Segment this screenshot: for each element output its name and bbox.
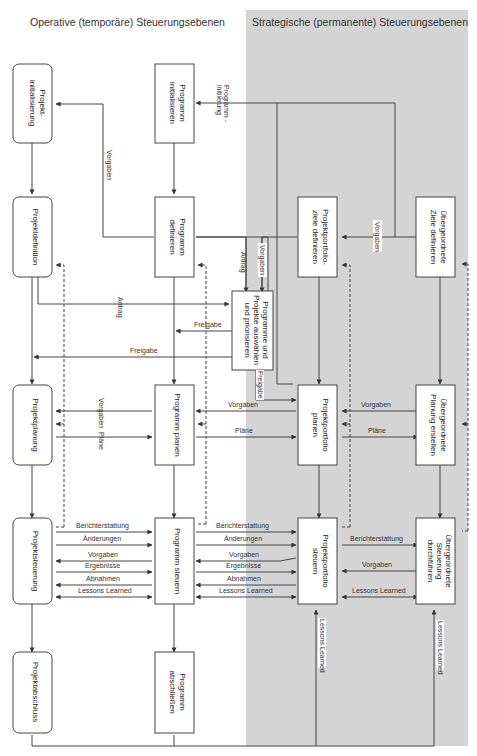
svg-text:Antrag: Antrag xyxy=(116,297,124,318)
svg-text:Vorgaben: Vorgaben xyxy=(88,551,118,559)
box-projektportfolio-planen: Projektportfolioplanen xyxy=(298,385,337,465)
diagram-canvas: Operative (temporäre) Steuerungsebenen S… xyxy=(0,0,477,756)
svg-text:Abnahmen: Abnahmen xyxy=(86,575,120,582)
box-projektplanung: Projektplanung xyxy=(13,385,52,465)
svg-text:Berichterstattung: Berichterstattung xyxy=(216,522,269,530)
svg-text:Projektplanung: Projektplanung xyxy=(31,398,40,451)
svg-text:Ergebnisse: Ergebnisse xyxy=(226,562,261,570)
svg-text:Projektabschluss: Projektabschluss xyxy=(31,662,40,722)
box-projektportfolio-steuern: Projektportfoliosteuern xyxy=(298,518,337,604)
svg-text:Vorgaben: Vorgaben xyxy=(105,150,113,180)
svg-text:Vorgaben: Vorgaben xyxy=(362,561,392,569)
svg-text:Programm steuern: Programm steuern xyxy=(173,528,182,594)
svg-text:Programmabschließen: Programmabschließen xyxy=(168,670,187,713)
operative-header: Operative (temporäre) Steuerungsebenen xyxy=(30,16,225,28)
svg-text:Vorgaben: Vorgaben xyxy=(258,245,266,275)
box-programm-planen: Programm planen xyxy=(155,385,194,465)
box-projektabschluss: Projektabschluss xyxy=(13,652,52,733)
box-projektportfolioziele-definieren: Projektportfolio-ziele definieren xyxy=(298,197,337,277)
svg-text:Ergebnisse: Ergebnisse xyxy=(85,562,120,570)
svg-text:Programminitialisieren: Programminitialisieren xyxy=(168,82,187,124)
box-programm-abschliessen: Programmabschließen xyxy=(155,652,194,733)
svg-text:Berichterstattung: Berichterstattung xyxy=(350,535,403,543)
svg-text:Pläne: Pläne xyxy=(368,427,386,434)
svg-text:Änderungen: Änderungen xyxy=(83,535,121,543)
box-programm-initialisieren: Programminitialisieren xyxy=(155,64,194,143)
svg-text:Programme undProjekte auswähle: Programme undProjekte auswählenund prior… xyxy=(243,295,270,365)
svg-text:ÜbergeordnetePlanung erstellen: ÜbergeordnetePlanung erstellen xyxy=(429,394,448,456)
svg-text:Lessons Learned: Lessons Learned xyxy=(437,621,444,675)
svg-text:Freigabe: Freigabe xyxy=(194,321,222,329)
svg-text:Programmdefinieren: Programmdefinieren xyxy=(168,218,187,256)
svg-text:Lessons Learned: Lessons Learned xyxy=(78,587,132,594)
box-programm-steuern: Programm steuern xyxy=(155,518,194,604)
box-projektsteuerung: Projektsteuerung xyxy=(13,518,52,604)
svg-text:Vorgaben: Vorgaben xyxy=(361,401,391,409)
svg-text:Abnahmen: Abnahmen xyxy=(227,575,261,582)
svg-text:Antrag: Antrag xyxy=(239,252,247,273)
svg-text:Programm -initiierung: Programm -initiierung xyxy=(215,85,230,123)
box-uebergeordnete-ziele-definieren: ÜbergeordneteZiele definieren xyxy=(416,197,455,277)
svg-text:Lessons Learned: Lessons Learned xyxy=(319,619,326,673)
svg-text:ÜbergeordneteZiele definieren: ÜbergeordneteZiele definieren xyxy=(429,210,448,265)
svg-text:Freigabe: Freigabe xyxy=(256,371,264,399)
svg-text:Berichterstattung: Berichterstattung xyxy=(76,522,129,530)
svg-text:Lessons Learned: Lessons Learned xyxy=(352,587,406,594)
svg-text:Programm planen: Programm planen xyxy=(173,393,182,457)
svg-text:Vorgaben: Vorgaben xyxy=(373,222,381,252)
box-uebergeordnete-planung-erstellen: ÜbergeordnetePlanung erstellen xyxy=(416,385,455,465)
svg-text:Pläne: Pläne xyxy=(235,427,253,434)
svg-text:Vorgaben: Vorgaben xyxy=(229,551,259,559)
svg-text:Änderungen: Änderungen xyxy=(224,535,262,543)
svg-text:Pläne: Pläne xyxy=(98,432,105,450)
svg-text:Projektportfolio-ziele definie: Projektportfolio-ziele definieren xyxy=(311,209,330,265)
box-programme-projekte-auswaehlen: Programme undProjekte auswählenund prior… xyxy=(232,291,273,370)
svg-text:Vorgaben: Vorgaben xyxy=(97,398,105,428)
svg-text:Projektsteuerung: Projektsteuerung xyxy=(31,531,40,591)
strategic-area xyxy=(246,10,468,746)
box-programm-definieren: Programmdefinieren xyxy=(155,197,194,277)
svg-text:Vorgaben: Vorgaben xyxy=(228,401,258,409)
svg-text:Projektdefinition: Projektdefinition xyxy=(31,209,40,266)
box-uebergeordnete-steuerung-durchfuehren: ÜbergeordneteSteuerungdurchführen xyxy=(416,518,455,604)
svg-text:Lessons Learned: Lessons Learned xyxy=(219,587,273,594)
svg-text:Freigabe: Freigabe xyxy=(130,347,158,355)
box-projekt-initialisierung: Projekt-initialisierung xyxy=(13,64,52,143)
strategic-header: Strategische (permanente) Steuerungseben… xyxy=(252,16,468,28)
box-projektdefinition: Projektdefinition xyxy=(13,197,52,277)
